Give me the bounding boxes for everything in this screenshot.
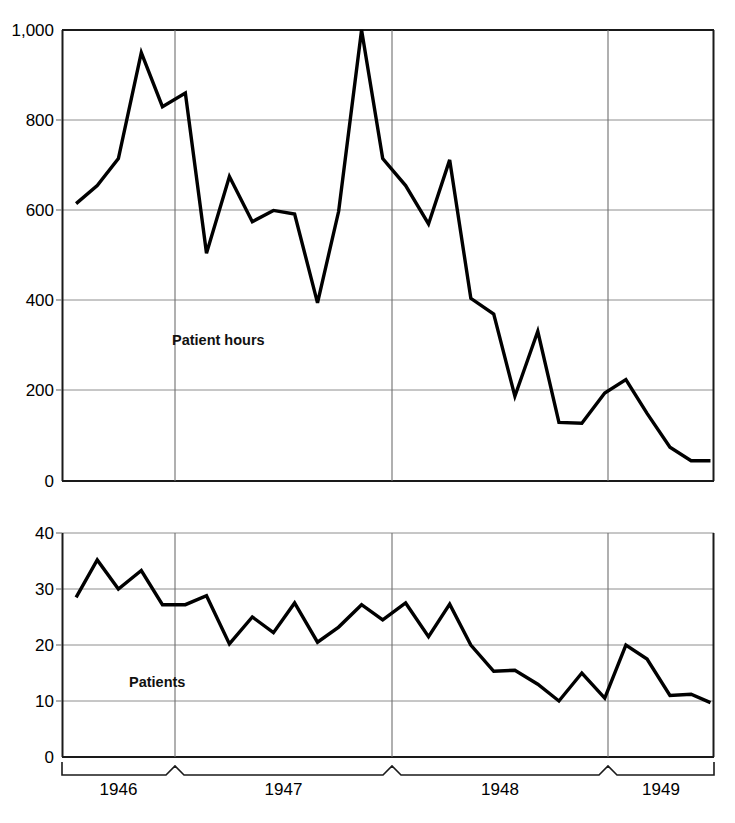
year-label-1946: 1946 xyxy=(100,780,138,799)
series-annotation-patients: Patients xyxy=(129,674,185,690)
year-label-1949: 1949 xyxy=(642,780,680,799)
y-tick-label-600: 600 xyxy=(26,201,54,220)
chart-figure: 1,000 800 600 400 200 0 xyxy=(0,0,735,823)
y-tick-label-0: 0 xyxy=(45,472,54,491)
y-tick-label-20: 20 xyxy=(35,636,54,655)
panel-patients: 40 30 20 10 0 Pat xyxy=(35,524,714,767)
y-tick-label-30: 30 xyxy=(35,580,54,599)
panel-patient-hours: 1,000 800 600 400 200 0 xyxy=(11,21,714,491)
series-line-patient-hours xyxy=(76,30,710,461)
chart-svg: 1,000 800 600 400 200 0 xyxy=(0,0,735,823)
series-annotation-patient-hours: Patient hours xyxy=(172,332,265,348)
y-tick-label-200: 200 xyxy=(26,381,54,400)
year-bracket-path xyxy=(62,762,714,775)
y-tick-label-40: 40 xyxy=(35,524,54,543)
year-label-1947: 1947 xyxy=(265,780,303,799)
y-tick-label-400: 400 xyxy=(26,291,54,310)
y-tick-label-0-bottom: 0 xyxy=(45,748,54,767)
y-tick-label-1000: 1,000 xyxy=(11,21,54,40)
y-tick-label-10: 10 xyxy=(35,692,54,711)
y-tick-label-800: 800 xyxy=(26,111,54,130)
year-label-1948: 1948 xyxy=(481,780,519,799)
year-bracket-axis: 1946 1947 1948 1949 xyxy=(62,762,714,799)
